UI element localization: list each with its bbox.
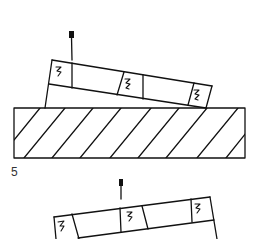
tilted-bar — [54, 197, 217, 239]
top-figure — [14, 31, 246, 158]
figure-number-label: 5 — [11, 165, 18, 179]
spring-icon — [125, 79, 130, 89]
diagram-canvas — [0, 0, 263, 239]
spring-icon — [195, 204, 200, 213]
pin-marker-icon — [69, 31, 74, 60]
spring-icon — [194, 90, 199, 100]
hatched-base — [14, 108, 246, 158]
spring-icon — [127, 212, 132, 221]
spring-icon — [56, 67, 61, 76]
spring-icon — [58, 221, 64, 231]
pin-marker-icon — [119, 179, 123, 199]
bottom-figure — [54, 179, 217, 239]
